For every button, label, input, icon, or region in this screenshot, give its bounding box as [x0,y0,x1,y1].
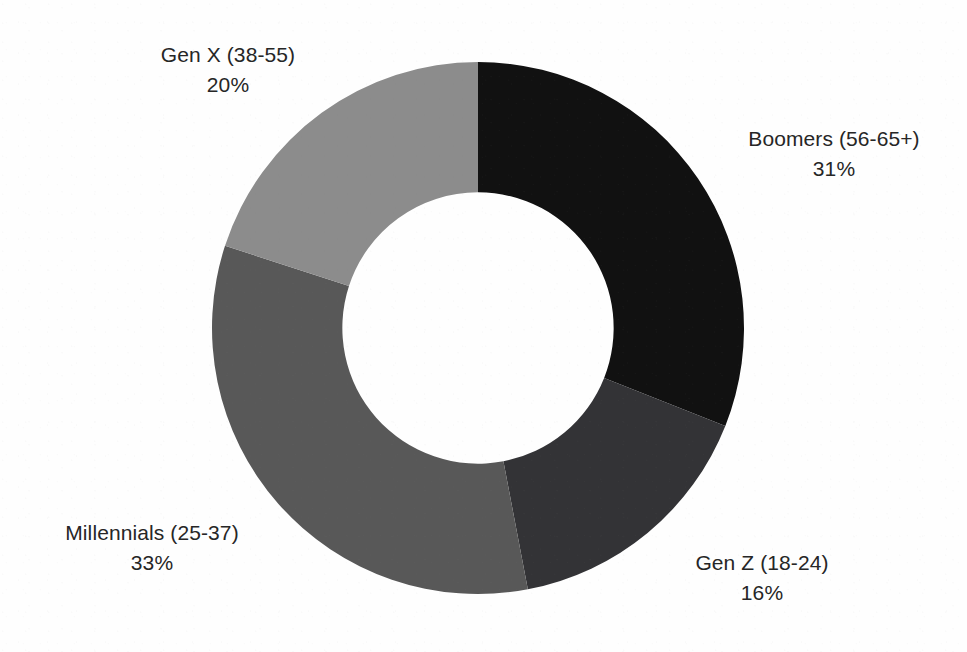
slice-label-millennials: Millennials (25-37) 33% [32,518,272,578]
donut-slice-boomers[interactable] [478,62,744,426]
slice-label-millennials-name: Millennials (25-37) [32,518,272,548]
slice-label-genz: Gen Z (18-24) 16% [664,548,860,608]
donut-chart: Gen X (38-55) 20% Boomers (56-65+) 31% M… [0,0,967,652]
slice-label-genx-value: 20% [126,70,330,100]
slice-label-genz-value: 16% [664,578,860,608]
slice-label-genx: Gen X (38-55) 20% [126,40,330,100]
slice-label-boomers-value: 31% [726,154,942,184]
slice-label-boomers-name: Boomers (56-65+) [726,124,942,154]
donut-slice-group [212,62,744,594]
slice-label-genx-name: Gen X (38-55) [126,40,330,70]
slice-label-genz-name: Gen Z (18-24) [664,548,860,578]
slice-label-boomers: Boomers (56-65+) 31% [726,124,942,184]
slice-label-millennials-value: 33% [32,548,272,578]
chart-page: Gen X (38-55) 20% Boomers (56-65+) 31% M… [0,0,967,652]
